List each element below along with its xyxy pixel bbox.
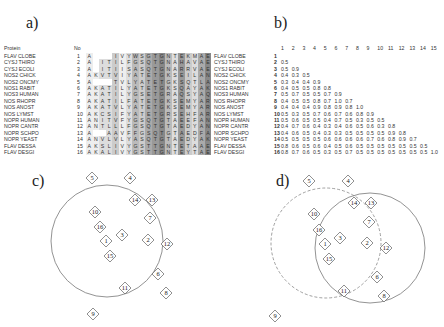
svg-text:1: 1	[323, 240, 326, 247]
svg-text:5: 5	[307, 177, 310, 184]
node-3: 3	[334, 232, 346, 244]
node-5: 5	[303, 175, 315, 187]
svg-text:15: 15	[326, 255, 333, 262]
diagram-c: 54141310716312121561189 5414131071631212…	[0, 0, 444, 327]
node-2: 2	[361, 237, 373, 249]
node-1: 1	[100, 235, 112, 247]
node-14: 14	[129, 194, 141, 206]
svg-text:16: 16	[97, 223, 104, 230]
svg-text:14: 14	[132, 196, 139, 203]
node-4: 4	[124, 172, 136, 184]
node-15: 15	[104, 250, 116, 262]
node-11: 11	[338, 285, 350, 297]
node-9: 9	[269, 310, 281, 322]
node-7: 7	[363, 216, 375, 228]
node-4: 4	[342, 175, 354, 187]
svg-text:2: 2	[365, 239, 368, 246]
node-16: 16	[94, 221, 106, 233]
svg-text:9: 9	[91, 310, 94, 317]
node-5: 5	[86, 172, 98, 184]
svg-text:12: 12	[383, 244, 390, 251]
svg-text:11: 11	[122, 284, 128, 291]
svg-text:3: 3	[120, 231, 123, 238]
node-13: 13	[146, 194, 158, 206]
svg-text:10: 10	[311, 210, 318, 217]
node-8: 8	[160, 287, 172, 299]
svg-text:15: 15	[107, 252, 114, 259]
node-3: 3	[116, 229, 128, 241]
node-13: 13	[365, 197, 377, 209]
svg-text:9: 9	[273, 312, 276, 319]
svg-text:13: 13	[149, 196, 156, 203]
svg-text:10: 10	[92, 208, 99, 215]
svg-text:14: 14	[351, 199, 358, 206]
node-1: 1	[319, 238, 331, 250]
node-2: 2	[142, 234, 154, 246]
node-16: 16	[313, 224, 325, 236]
svg-text:5: 5	[90, 174, 93, 181]
svg-text:3: 3	[338, 234, 341, 241]
svg-text:2: 2	[146, 236, 149, 243]
node-10: 10	[89, 206, 101, 218]
svg-text:16: 16	[316, 226, 323, 233]
node-15: 15	[323, 253, 335, 265]
node-10: 10	[308, 208, 320, 220]
node-6: 6	[152, 268, 164, 280]
svg-text:13: 13	[368, 199, 375, 206]
venn-circle-solid	[315, 193, 425, 303]
svg-text:11: 11	[341, 287, 347, 294]
svg-text:8: 8	[164, 289, 167, 296]
svg-text:1: 1	[104, 237, 107, 244]
svg-text:8: 8	[382, 292, 385, 299]
svg-text:12: 12	[164, 240, 171, 247]
node-12: 12	[380, 242, 392, 254]
node-9: 9	[87, 308, 99, 320]
node-14: 14	[348, 197, 360, 209]
node-6: 6	[371, 271, 383, 283]
node-7: 7	[144, 212, 156, 224]
